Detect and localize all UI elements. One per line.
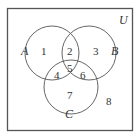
region-7: 7 [67, 89, 73, 101]
universe-label: U [119, 13, 129, 27]
region-2: 2 [67, 45, 73, 57]
region-6: 6 [80, 69, 86, 81]
region-4: 4 [54, 69, 60, 81]
region-8: 8 [106, 95, 112, 107]
region-1: 1 [41, 45, 47, 57]
set-label-b: B [111, 44, 119, 58]
region-5: 5 [67, 62, 73, 74]
set-label-c: C [65, 107, 74, 121]
region-3: 3 [93, 45, 99, 57]
venn-diagram: U A B C 1 2 3 4 5 6 7 8 [0, 0, 139, 137]
set-label-a: A [20, 44, 29, 58]
